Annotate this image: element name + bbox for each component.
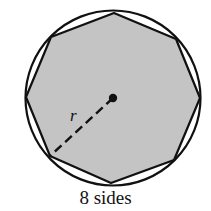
radius-label: r <box>70 106 77 125</box>
figure-caption: 8 sides <box>0 187 211 209</box>
inscribed-octagon-diagram: r <box>0 0 211 211</box>
center-point <box>109 94 117 102</box>
